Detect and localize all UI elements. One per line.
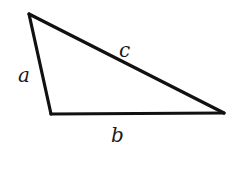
label-a: a [18, 63, 30, 87]
label-b: b [111, 123, 124, 147]
label-c: c [119, 38, 130, 62]
background [0, 0, 247, 181]
triangle-diagram: a c b [0, 0, 247, 181]
side-b-line [51, 113, 224, 114]
